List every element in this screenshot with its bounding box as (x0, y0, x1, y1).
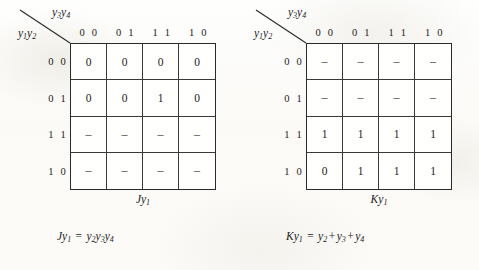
row-header: 1 0 (262, 153, 304, 190)
kmap-cell: – (179, 153, 215, 189)
kmap-jy1-row-headers: 0 0 0 1 1 1 1 0 (26, 43, 68, 190)
kmap-jy1-equation: Jy1 = y2y3y4 (57, 230, 114, 244)
column-header: 1 1 (143, 27, 180, 38)
kmap-cell: – (143, 153, 179, 189)
kmap-cell: – (107, 117, 143, 153)
kmap-ky1-column-headers: 0 0 0 1 1 1 1 0 (306, 27, 452, 38)
kmap-ky1-row-variable-label: y1y2 (254, 27, 272, 41)
kmap-cell: 1 (379, 153, 415, 189)
kmap-cell: – (179, 117, 215, 153)
kmap-cell: – (343, 80, 379, 116)
kmap-cell: 0 (71, 44, 107, 80)
column-header: 1 0 (180, 27, 217, 38)
kmap-cell: 0 (107, 44, 143, 80)
kmap-cell: – (71, 117, 107, 153)
kmap-cell: 0 (307, 153, 343, 189)
figure-page: y3y4 y1y2 0 0 0 1 1 1 1 0 0 0 0 1 1 1 1 … (0, 0, 479, 270)
kmap-cell: 0 (143, 44, 179, 80)
kmap-jy1-axis-corner: y3y4 y1y2 (18, 6, 80, 44)
column-header: 0 1 (343, 27, 380, 38)
kmap-ky1-grid: – – – – – – – – 1 1 1 1 0 1 1 1 (306, 43, 452, 190)
kmap-cell: 0 (179, 80, 215, 116)
kmap-ky1-caption: Ky1 (306, 193, 452, 207)
kmap-ky1-row-headers: 0 0 0 1 1 1 1 0 (262, 43, 304, 190)
column-header: 0 0 (70, 27, 107, 38)
kmap-cell: 1 (415, 117, 451, 153)
kmap-cell: 1 (415, 153, 451, 189)
kmap-ky1-axis-corner: y3y4 y1y2 (254, 6, 316, 44)
kmap-cell: – (71, 153, 107, 189)
kmap-cell: – (415, 44, 451, 80)
column-header: 1 1 (379, 27, 416, 38)
column-header: 0 0 (306, 27, 343, 38)
kmap-ky1-column-variable-label: y3y4 (288, 6, 306, 20)
kmap-jy1-row-variable-label: y1y2 (18, 27, 36, 41)
kmap-jy1-caption: Jy1 (70, 193, 216, 207)
kmap-ky1: y3y4 y1y2 0 0 0 1 1 1 1 0 0 0 0 1 1 1 1 … (236, 0, 476, 270)
kmap-cell: 1 (343, 153, 379, 189)
kmap-cell: – (307, 80, 343, 116)
kmap-cell: 0 (179, 44, 215, 80)
row-header: 0 0 (262, 43, 304, 80)
row-header: 1 0 (26, 153, 68, 190)
row-header: 0 1 (262, 80, 304, 117)
kmap-cell: – (107, 153, 143, 189)
row-header: 0 1 (26, 80, 68, 117)
kmap-cell: 0 (107, 80, 143, 116)
kmap-cell: 0 (71, 80, 107, 116)
kmap-cell: – (379, 44, 415, 80)
kmap-jy1-column-headers: 0 0 0 1 1 1 1 0 (70, 27, 216, 38)
row-header: 1 1 (262, 117, 304, 154)
kmap-jy1-grid: 0 0 0 0 0 0 1 0 – – – – – – – – (70, 43, 216, 190)
kmap-cell: – (343, 44, 379, 80)
kmap-cell: 1 (143, 80, 179, 116)
column-header: 0 1 (107, 27, 144, 38)
kmap-jy1: y3y4 y1y2 0 0 0 1 1 1 1 0 0 0 0 1 1 1 1 … (0, 0, 240, 270)
kmap-cell: – (379, 80, 415, 116)
row-header: 1 1 (26, 117, 68, 154)
kmap-cell: 1 (343, 117, 379, 153)
kmap-jy1-column-variable-label: y3y4 (52, 6, 70, 20)
kmap-cell: 1 (379, 117, 415, 153)
kmap-cell: – (415, 80, 451, 116)
kmap-ky1-equation: Ky1 = y2+y3+y4 (286, 230, 364, 244)
row-header: 0 0 (26, 43, 68, 80)
kmap-cell: – (143, 117, 179, 153)
column-header: 1 0 (416, 27, 453, 38)
kmap-cell: – (307, 44, 343, 80)
kmap-cell: 1 (307, 117, 343, 153)
